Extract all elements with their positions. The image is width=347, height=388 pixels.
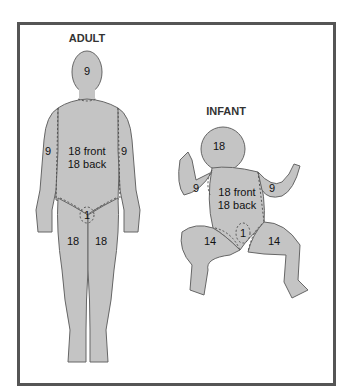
infant-head-label: 18 <box>213 140 225 152</box>
adult-trunk-front-label: 18 front <box>68 145 105 157</box>
adult-trunk-back-label: 18 back <box>68 158 107 170</box>
adult-right-leg-label: 18 <box>95 235 107 247</box>
adult-left-arm-label: 9 <box>45 145 51 157</box>
adult-left-leg-label: 18 <box>67 235 79 247</box>
adult-left-arm <box>36 108 58 232</box>
adult-left-leg <box>58 198 89 362</box>
infant-trunk-front-label: 18 front <box>218 186 255 198</box>
rule-of-nines-diagram: ADULT 9 9 9 18 front 18 back 1 18 18 INF… <box>0 0 347 388</box>
adult-title: ADULT <box>69 32 106 44</box>
adult-genitals-label: 1 <box>84 209 90 221</box>
infant-left-leg-label: 14 <box>204 235 216 247</box>
infant-genitals-label: 1 <box>240 227 246 239</box>
infant-right-arm-label: 9 <box>269 182 275 194</box>
infant-right-arm <box>258 164 300 197</box>
adult-head-label: 9 <box>84 65 90 77</box>
infant-right-leg <box>248 222 308 298</box>
infant-right-leg-label: 14 <box>268 235 280 247</box>
infant-figure <box>179 127 308 298</box>
adult-right-arm <box>118 108 140 232</box>
infant-left-arm-label: 9 <box>193 182 199 194</box>
infant-title: INFANT <box>206 105 246 117</box>
infant-trunk-back-label: 18 back <box>218 199 257 211</box>
adult-torso <box>54 99 121 215</box>
adult-right-arm-label: 9 <box>121 145 127 157</box>
adult-figure <box>36 51 140 362</box>
adult-right-leg <box>88 198 119 362</box>
